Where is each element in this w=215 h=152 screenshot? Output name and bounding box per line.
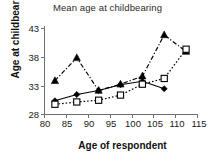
x-tick-label-110: 110 [169, 118, 184, 129]
series-square-marker [74, 99, 80, 105]
series-triangle-line [55, 35, 186, 91]
y-axis-label: Age at childbearing [10, 0, 21, 79]
x-tick-label-95: 95 [106, 118, 117, 129]
x-tick-label-80: 80 [40, 118, 51, 129]
series-diamond-marker [74, 91, 80, 97]
chart-title: Mean age at childbearing [0, 2, 215, 13]
series-diamond-marker [117, 82, 123, 88]
series-diamond-marker [161, 86, 167, 92]
series-square-marker [183, 46, 189, 52]
y-tick-label-33: 33 [28, 81, 39, 92]
x-tick-label-115: 115 [191, 118, 206, 129]
x-tick-label-105: 105 [147, 118, 163, 129]
series-triangle-marker [117, 80, 124, 87]
series-triangle-marker [95, 87, 102, 94]
series-triangle-marker [161, 31, 168, 38]
series-diamond-marker [52, 98, 58, 104]
y-tick-label-38: 38 [28, 52, 39, 63]
series-triangle-marker [73, 54, 80, 61]
series-square [52, 46, 189, 107]
chart-container: Mean age at childbearing Age at childbea… [0, 0, 215, 152]
series-diamond [52, 78, 167, 104]
series-square-marker [117, 92, 123, 98]
y-tick-label-28: 28 [28, 109, 39, 120]
series-square-marker [139, 81, 145, 87]
series-square-marker [52, 101, 58, 107]
x-tick-label-100: 100 [125, 118, 141, 129]
series-triangle [51, 31, 189, 93]
y-tick-33 [41, 86, 45, 87]
x-tick-label-90: 90 [84, 118, 95, 129]
x-axis-label: Age of respondent [30, 140, 215, 151]
series-square-line [55, 49, 186, 104]
series-diamond-line [55, 81, 164, 101]
series-diamond-marker [139, 78, 145, 84]
series-diamond-marker [96, 87, 102, 93]
y-tick-label-43: 43 [28, 23, 39, 34]
series-square-marker [161, 75, 167, 81]
y-axis-line [44, 26, 45, 116]
series-triangle-marker [51, 77, 58, 84]
y-tick-43 [41, 28, 45, 29]
series-triangle-marker [139, 72, 146, 79]
x-tick-label-85: 85 [62, 118, 73, 129]
series-square-marker [96, 97, 102, 103]
y-tick-38 [41, 57, 45, 58]
series-triangle-marker [182, 48, 189, 55]
